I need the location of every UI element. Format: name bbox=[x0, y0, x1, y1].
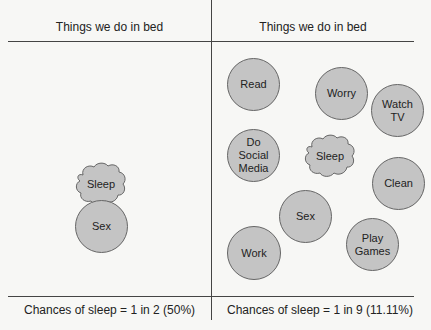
play-games-circle: PlayGames bbox=[346, 218, 399, 271]
clean-label: Clean bbox=[384, 177, 413, 190]
social-media-circle: DoSocialMedia bbox=[227, 129, 280, 182]
left-panel-title: Things we do in bed bbox=[8, 20, 211, 34]
sex-label: Sex bbox=[296, 210, 315, 223]
sex-circle-right: Sex bbox=[279, 190, 332, 243]
right-panel-title: Things we do in bed bbox=[212, 20, 414, 34]
work-label: Work bbox=[241, 247, 266, 260]
worry-circle: Worry bbox=[315, 67, 368, 120]
read-circle: Read bbox=[227, 58, 280, 111]
right-panel-footer: Chances of sleep = 1 in 9 (11.11%) bbox=[227, 303, 413, 317]
work-circle: Work bbox=[227, 226, 281, 280]
clean-circle: Clean bbox=[372, 157, 425, 210]
social-media-label: DoSocialMedia bbox=[239, 136, 269, 175]
watch-tv-circle: WatchTV bbox=[371, 84, 424, 137]
panel-divider bbox=[211, 0, 212, 320]
sex-circle-left: Sex bbox=[75, 200, 128, 253]
left-panel-footer: Chances of sleep = 1 in 2 (50%) bbox=[24, 303, 195, 317]
watch-tv-label: WatchTV bbox=[382, 98, 413, 124]
worry-label: Worry bbox=[327, 87, 356, 100]
sleep-cloud-right: Sleep bbox=[302, 133, 358, 179]
sex-label: Sex bbox=[92, 220, 111, 233]
play-games-label: PlayGames bbox=[355, 232, 390, 258]
read-label: Read bbox=[240, 78, 266, 91]
sleep-label: Sleep bbox=[302, 133, 358, 179]
